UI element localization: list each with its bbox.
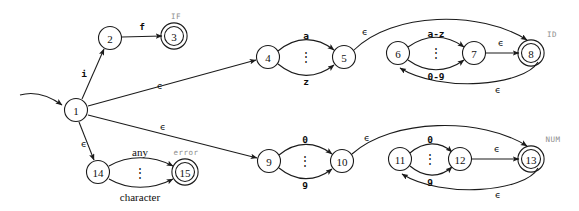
state-label: 10: [337, 156, 349, 168]
transition-label-t7_8: ϵ: [498, 37, 504, 48]
state-label: 11: [395, 154, 406, 166]
state-label: 8: [528, 48, 534, 60]
state-node-2[interactable]: 2: [99, 27, 122, 50]
state-label: 14: [93, 167, 105, 179]
transition-8-to-6: [400, 62, 538, 84]
transition-label-t9_10_dots: ⋮: [299, 154, 311, 168]
transition-label-t11_12_dots: ⋮: [424, 152, 436, 166]
transition-label-t6_7_dots: ⋮: [430, 46, 442, 60]
transition-label-t14_15_char: character: [120, 191, 161, 203]
state-label: 7: [471, 48, 477, 60]
transition-14-to-15: [109, 179, 173, 187]
transition-10-to-13: [352, 126, 527, 154]
transition-label-t14_15_dots: ⋮: [134, 166, 146, 180]
nfa-svg: 123456789101112131415 ifϵaz⋮ϵa-z0-9⋮ϵϵϵ0…: [0, 0, 579, 211]
transition-11-to-12: [410, 166, 452, 175]
state-label: 3: [171, 31, 177, 43]
state-node-11[interactable]: 11: [389, 148, 412, 171]
transition-label-t11_12_9: 9: [427, 177, 433, 188]
state-node-12[interactable]: 12: [449, 148, 472, 171]
transition-label-t4_5_a: a: [303, 30, 309, 41]
state-node-9[interactable]: 9: [258, 150, 281, 173]
state-label: 15: [180, 167, 192, 179]
transition-label-t1_4: ϵ: [157, 80, 163, 91]
transition-9-to-10: [279, 168, 332, 179]
state-label: 12: [455, 154, 466, 166]
transition-label-t1_14: ϵ: [81, 138, 87, 149]
transition-6-to-7: [408, 60, 464, 70]
state-label: 13: [526, 154, 538, 166]
accept-tag-3: IF: [171, 12, 181, 21]
state-node-8[interactable]: 8: [518, 40, 544, 66]
transition-label-t6_7_az: a-z: [427, 28, 444, 39]
state-label: 4: [265, 52, 271, 64]
state-label: 9: [266, 156, 272, 168]
transition-label-t6_7_09: 0-9: [427, 71, 444, 82]
transition-13-to-11: [402, 168, 538, 190]
transition-14-to-15: [109, 158, 173, 166]
accept-tag-13: NUM: [545, 135, 560, 144]
transition-label-t9_10_9: 9: [302, 180, 308, 191]
transition-4-to-5: [278, 64, 334, 75]
start-arrow: [20, 93, 62, 105]
transition-label-t2_3: f: [139, 21, 145, 32]
state-node-4[interactable]: 4: [257, 46, 280, 69]
transition-label-t1_9: ϵ: [160, 121, 166, 132]
transition-1-to-4: [88, 60, 256, 106]
accept-tag-8: ID: [547, 30, 557, 39]
state-node-3[interactable]: 3: [161, 23, 187, 49]
state-label: 6: [395, 48, 401, 60]
transition-2-to-3: [122, 36, 162, 37]
transition-label-t13_11: ϵ: [495, 189, 501, 200]
state-node-5[interactable]: 5: [333, 46, 356, 69]
transition-label-t5_8: ϵ: [362, 26, 368, 37]
transition-label-t10_13: ϵ: [364, 132, 370, 143]
state-node-7[interactable]: 7: [463, 42, 486, 65]
transition-label-t8_6: ϵ: [495, 84, 501, 95]
state-node-14[interactable]: 14: [87, 161, 110, 184]
state-label: 5: [341, 52, 347, 64]
state-node-15[interactable]: 15: [172, 159, 198, 185]
state-label: 1: [73, 105, 79, 117]
state-node-1[interactable]: 1: [65, 99, 88, 122]
state-node-6[interactable]: 6: [387, 42, 410, 65]
transition-label-t1_2: i: [81, 68, 87, 79]
accept-tag-15: error: [173, 148, 198, 157]
transition-label-t11_12_0: 0: [427, 134, 433, 145]
state-node-13[interactable]: 13: [518, 146, 544, 172]
transition-label-t9_10_0: 0: [302, 134, 308, 145]
state-node-10[interactable]: 10: [331, 150, 354, 173]
transition-label-t4_5_dots: ⋮: [300, 50, 312, 64]
transition-label-t14_15_any: any: [132, 146, 148, 158]
state-label: 2: [107, 33, 113, 45]
transition-label-t12_13: ϵ: [494, 143, 500, 154]
nfa-diagram-canvas: 123456789101112131415 ifϵaz⋮ϵa-z0-9⋮ϵϵϵ0…: [0, 0, 579, 211]
start-arrow-path: [20, 93, 62, 105]
transition-label-t4_5_z: z: [303, 76, 309, 87]
